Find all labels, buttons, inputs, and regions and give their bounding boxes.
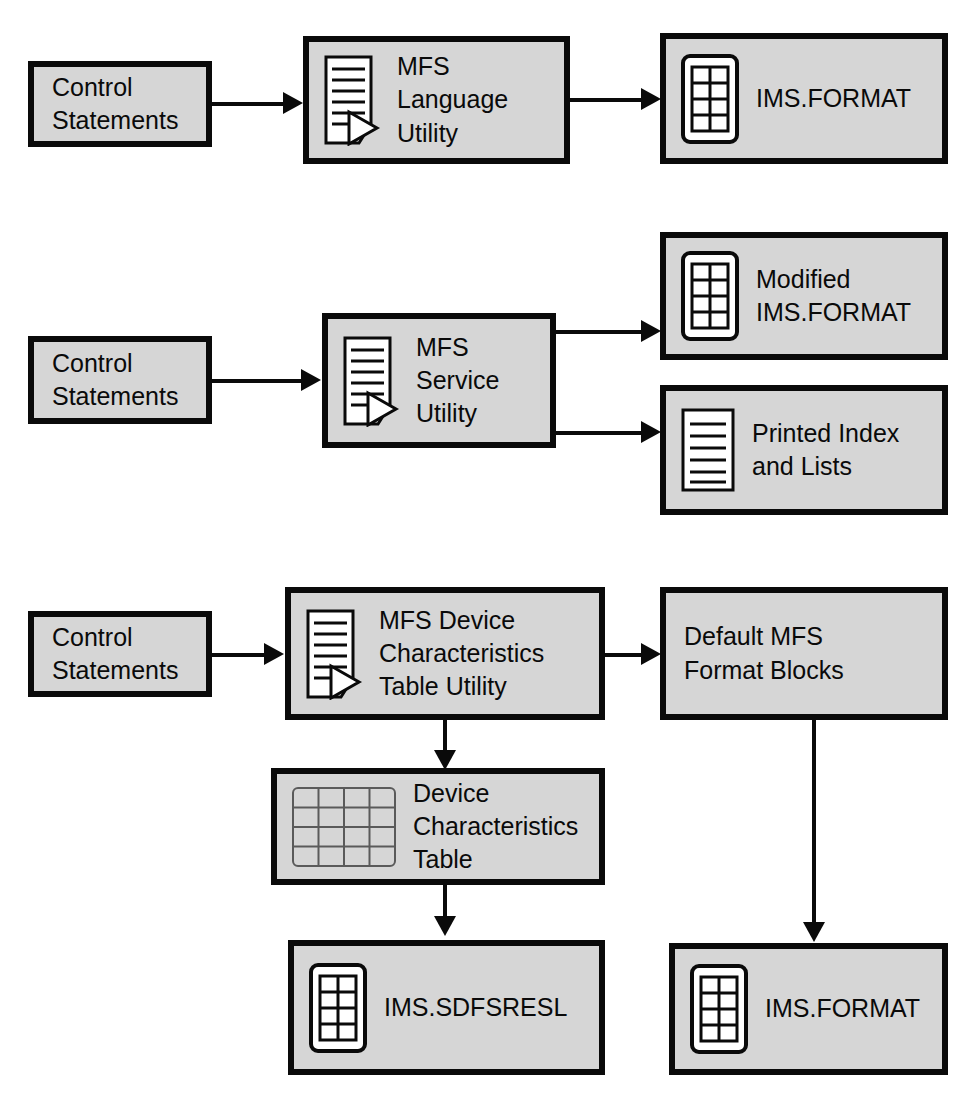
edge-control-statements-3-to-mfs-device-characteristics-table-utility — [212, 653, 265, 657]
arrowhead-icon — [264, 643, 284, 665]
node-ims-sdfsresl: IMS.SDFSRESL — [288, 940, 605, 1075]
dataset-icon — [689, 963, 749, 1055]
arrowhead-icon — [641, 421, 661, 443]
edge-mfs-service-utility-to-modified-ims-format — [556, 330, 642, 334]
arrowhead-icon — [434, 750, 456, 770]
node-printed-index-and-lists: Printed Index and Lists — [660, 385, 948, 515]
node-label: MFS Language Utility — [397, 50, 508, 150]
node-modified-ims-format: Modified IMS.FORMAT — [660, 232, 948, 360]
node-control-statements-3: Control Statements — [28, 611, 212, 697]
node-control-statements-2: Control Statements — [28, 336, 212, 424]
node-ims-format-1: IMS.FORMAT — [660, 33, 948, 164]
edge-control-statements-2-to-mfs-service-utility — [212, 379, 302, 383]
edge-control-statements-1-to-mfs-language-utility — [212, 102, 284, 106]
node-label: MFS Device Characteristics Table Utility — [379, 604, 544, 704]
node-label: IMS.SDFSRESL — [384, 991, 567, 1024]
node-label: Control Statements — [52, 71, 178, 138]
node-label: Control Statements — [52, 621, 178, 688]
node-label: Printed Index and Lists — [752, 417, 899, 484]
arrowhead-icon — [301, 369, 321, 391]
edge-mfs-language-utility-to-ims-format-1 — [570, 98, 642, 102]
node-ims-format-2: IMS.FORMAT — [669, 943, 948, 1075]
node-label: Default MFS Format Blocks — [684, 620, 844, 687]
edge-mfs-device-characteristics-table-utility-to-default-mfs-format-blocks — [605, 653, 642, 657]
node-label: IMS.FORMAT — [756, 82, 911, 115]
dataset-icon — [680, 53, 740, 145]
node-mfs-language-utility: MFS Language Utility — [303, 36, 570, 164]
node-label: Control Statements — [52, 347, 178, 414]
arrowhead-icon — [641, 643, 661, 665]
arrowhead-icon — [283, 92, 303, 114]
node-default-mfs-format-blocks: Default MFS Format Blocks — [660, 587, 948, 720]
dataset-icon — [308, 962, 368, 1054]
node-mfs-device-characteristics-table-utility: MFS Device Characteristics Table Utility — [285, 587, 605, 720]
arrowhead-icon — [803, 922, 825, 942]
diagram-canvas: Control Statements MFS Language Utility — [0, 0, 979, 1103]
edge-device-characteristics-table-to-ims-sdfsresl — [443, 885, 447, 918]
node-control-statements-1: Control Statements — [28, 61, 212, 147]
edge-mfs-device-characteristics-table-utility-to-device-characteristics-table — [443, 720, 447, 752]
dataset-icon — [680, 250, 740, 342]
node-label: Device Characteristics Table — [413, 777, 578, 877]
table-grid-icon — [291, 786, 397, 868]
edge-mfs-service-utility-to-printed-index-and-lists — [556, 431, 642, 435]
node-label: MFS Service Utility — [416, 331, 499, 431]
node-device-characteristics-table: Device Characteristics Table — [271, 768, 605, 885]
node-label: IMS.FORMAT — [765, 992, 920, 1025]
arrowhead-icon — [434, 916, 456, 936]
document-icon — [680, 407, 736, 493]
edge-default-mfs-format-blocks-to-ims-format-2 — [812, 720, 816, 925]
arrowhead-icon — [641, 320, 661, 342]
document-process-icon — [323, 54, 381, 146]
document-process-icon — [342, 335, 400, 427]
arrowhead-icon — [641, 88, 661, 110]
node-mfs-service-utility: MFS Service Utility — [322, 313, 556, 448]
document-process-icon — [305, 608, 363, 700]
node-label: Modified IMS.FORMAT — [756, 263, 911, 330]
